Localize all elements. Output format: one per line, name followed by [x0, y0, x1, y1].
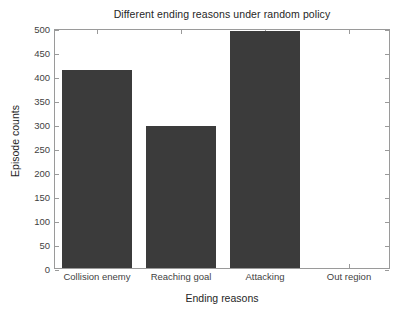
bar — [230, 31, 301, 268]
x-tick-label: Attacking — [245, 272, 284, 282]
plot-area: 050100150200250300350400450500 Collision… — [54, 29, 390, 269]
y-tick-label: 100 — [34, 217, 50, 227]
chart-title: Different ending reasons under random po… — [54, 8, 390, 20]
y-tick-mark: 250 — [55, 150, 59, 151]
x-tick-label: Collision enemy — [63, 272, 130, 282]
x-tick-mark: Out region — [349, 264, 350, 268]
chart-figure: Different ending reasons under random po… — [0, 0, 409, 318]
y-tick-mark-right — [385, 30, 389, 31]
x-tick-label: Out region — [327, 272, 371, 282]
y-tick-mark: 200 — [55, 174, 59, 175]
y-tick-mark: 100 — [55, 222, 59, 223]
y-tick-mark: 50 — [55, 246, 59, 247]
y-tick-label: 250 — [34, 145, 50, 155]
y-tick-mark-right — [385, 222, 389, 223]
y-tick-mark: 0 — [55, 270, 59, 271]
y-tick-mark-right — [385, 78, 389, 79]
y-tick-mark: 400 — [55, 78, 59, 79]
y-tick-mark-right — [385, 246, 389, 247]
bar — [146, 126, 217, 268]
x-tick-mark-top — [97, 30, 98, 34]
x-tick-mark-top — [349, 30, 350, 34]
y-tick-mark: 350 — [55, 102, 59, 103]
y-tick-mark-right — [385, 150, 389, 151]
y-tick-mark: 300 — [55, 126, 59, 127]
y-tick-mark: 450 — [55, 54, 59, 55]
y-tick-label: 500 — [34, 25, 50, 35]
y-tick-mark-right — [385, 102, 389, 103]
y-tick-label: 450 — [34, 49, 50, 59]
y-tick-mark: 150 — [55, 198, 59, 199]
y-tick-label: 0 — [45, 265, 50, 275]
y-tick-label: 150 — [34, 193, 50, 203]
plot-inner: 050100150200250300350400450500 Collision… — [55, 30, 389, 268]
y-tick-mark-right — [385, 54, 389, 55]
y-tick-mark-right — [385, 126, 389, 127]
x-axis-label: Ending reasons — [54, 292, 390, 304]
y-tick-mark-right — [385, 198, 389, 199]
y-tick-label: 300 — [34, 121, 50, 131]
bar — [62, 70, 133, 268]
y-tick-label: 350 — [34, 97, 50, 107]
y-axis-label: Episode counts — [9, 71, 21, 211]
y-tick-label: 200 — [34, 169, 50, 179]
x-tick-label: Reaching goal — [151, 272, 212, 282]
y-tick-mark-right — [385, 174, 389, 175]
y-tick-mark-right — [385, 270, 389, 271]
y-tick-label: 50 — [39, 241, 50, 251]
y-tick-label: 400 — [34, 73, 50, 83]
x-tick-mark-top — [181, 30, 182, 34]
y-tick-mark: 500 — [55, 30, 59, 31]
